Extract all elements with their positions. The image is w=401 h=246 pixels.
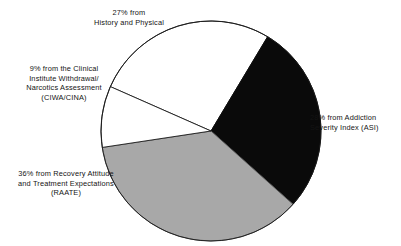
pie-slices-group [101,21,321,241]
slice-label-history-and-physical: 27% from History and Physical [61,8,197,27]
slice-label-raate: 36% from Recovery Attitude and Treatment… [0,169,132,198]
pie-chart-figure: 27% from History and Physical 9% from th… [0,0,401,246]
slice-label-asi: 28% from Addiction Severity Index (ASI) [310,113,401,132]
slice-label-ciwa-cina: 9% from the Clinical Institute Withdrawa… [2,64,126,102]
